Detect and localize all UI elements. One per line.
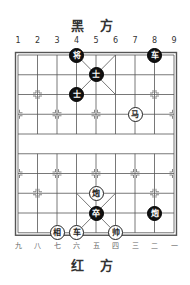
- bottom-col-label: 二: [149, 240, 161, 250]
- black-piece[interactable]: 车: [147, 48, 162, 63]
- bottom-col-label: 一: [168, 240, 180, 250]
- bottom-col-label: 七: [51, 240, 63, 250]
- red-piece[interactable]: 炮: [89, 186, 104, 201]
- bottom-col-label: 六: [71, 240, 83, 250]
- black-piece[interactable]: 卒: [89, 206, 104, 221]
- black-piece[interactable]: 将: [69, 48, 84, 63]
- bottom-col-label: 五: [90, 240, 102, 250]
- red-piece[interactable]: 马: [128, 107, 143, 122]
- bottom-col-label: 九: [12, 240, 24, 250]
- red-piece[interactable]: 相: [50, 225, 65, 240]
- bottom-col-label: 八: [32, 240, 44, 250]
- black-piece[interactable]: 士: [69, 87, 84, 102]
- black-piece[interactable]: 士: [89, 67, 104, 82]
- bottom-col-label: 四: [110, 240, 122, 250]
- red-side-title: 红 方: [0, 255, 190, 274]
- black-piece[interactable]: 炮: [147, 206, 162, 221]
- bottom-col-label: 三: [129, 240, 141, 250]
